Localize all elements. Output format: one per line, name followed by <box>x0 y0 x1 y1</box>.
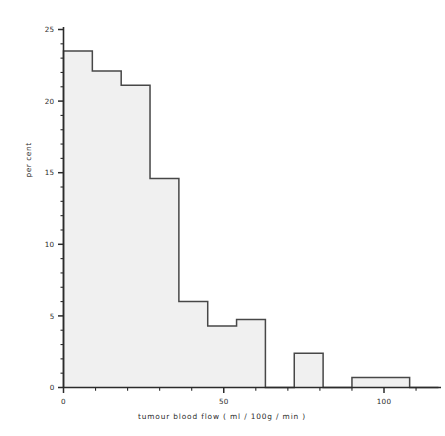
y-axis-major-ticks <box>58 30 64 388</box>
histogram-figure: 0510152025 050100 tumour blood flow ( ml… <box>0 0 445 436</box>
y-tick-label: 20 <box>45 97 55 106</box>
x-axis-title: tumour blood flow ( ml / 100g / min ) <box>138 412 306 421</box>
x-tick-label: 100 <box>377 397 392 406</box>
y-tick-label: 15 <box>45 168 55 177</box>
x-tick-label: 0 <box>61 397 66 406</box>
y-axis-tick-labels: 0510152025 <box>45 25 55 392</box>
histogram-bars <box>64 51 439 388</box>
y-tick-label: 10 <box>45 240 55 249</box>
y-tick-label: 5 <box>50 312 55 321</box>
y-tick-label: 25 <box>45 25 55 34</box>
x-axis-tick-labels: 050100 <box>61 397 391 406</box>
histogram-plot-area: 0510152025 050100 tumour blood flow ( ml… <box>0 0 445 436</box>
x-tick-label: 50 <box>219 397 229 406</box>
y-axis-title: per cent <box>24 142 33 177</box>
x-axis-ticks <box>64 388 417 394</box>
y-tick-label: 0 <box>50 383 55 392</box>
histogram-fill <box>64 51 439 388</box>
